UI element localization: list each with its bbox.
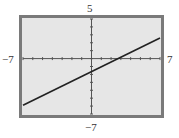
graph-window bbox=[0, 0, 179, 138]
